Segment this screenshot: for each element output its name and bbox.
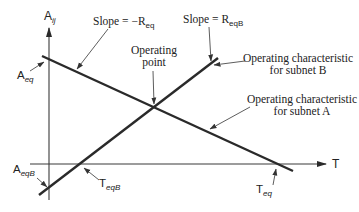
subnet-a-pointer	[210, 107, 250, 129]
slope-a-pointer	[77, 29, 108, 69]
operating-point-pointer	[153, 71, 154, 104]
subnet-b-pointer	[214, 61, 245, 65]
a-eq-pointer	[30, 62, 44, 71]
x-axis-label: T	[332, 157, 340, 171]
subnet-a-characteristic-line	[42, 56, 293, 171]
a-eqb-label: AeqB	[13, 163, 36, 178]
operating-characteristic-diagram: Aij T Slope = −Req Slope = ReqB Operatin…	[0, 0, 359, 212]
a-eqb-pointer	[37, 178, 47, 187]
operating-point-label-line2: point	[142, 56, 166, 69]
a-eq-label: Aeq	[17, 69, 34, 84]
slope-b-label: Slope = ReqB	[183, 13, 243, 28]
subnet-b-characteristic-line	[39, 58, 218, 195]
y-axis-label: Aij	[44, 9, 56, 25]
t-eq-label: Teq	[256, 183, 272, 198]
slope-b-pointer	[209, 27, 211, 61]
t-eqb-pointer	[84, 168, 99, 180]
t-eqb-label: TeqB	[99, 177, 121, 192]
slope-a-label: Slope = −Req	[93, 15, 155, 30]
subnet-b-label-line2: for subnet B	[270, 64, 327, 76]
subnet-a-label-line2: for subnet A	[274, 105, 332, 117]
t-eq-pointer	[273, 169, 276, 185]
